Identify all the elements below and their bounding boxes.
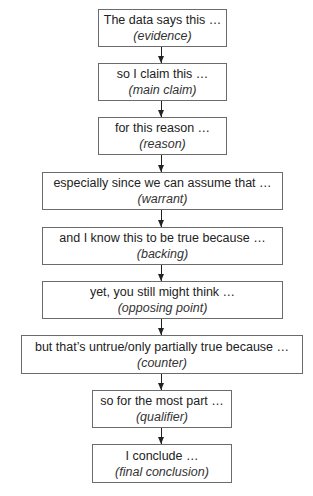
step-qualifier: so for the most part … (qualifier) (92, 390, 232, 428)
step-label: (backing) (137, 246, 188, 262)
step-text: for this reason … (115, 120, 210, 136)
step-text: especially since we can assume that … (53, 175, 271, 191)
step-label: (qualifier) (136, 409, 188, 425)
arrow-down-icon (161, 374, 162, 390)
step-counter: but that’s untrue/only partially true be… (21, 335, 303, 374)
arrow-down-icon (161, 155, 162, 172)
step-final-conclusion: I conclude … (final conclusion) (92, 444, 232, 483)
step-text: The data says this … (104, 12, 221, 28)
step-label: (final conclusion) (115, 464, 209, 480)
arrow-down-icon (161, 265, 162, 281)
arrow-down-icon (161, 101, 162, 117)
step-label: (opposing point) (118, 300, 208, 316)
step-text: and I know this to be true because … (59, 230, 265, 246)
step-opposing-point: yet, you still might think … (opposing p… (42, 281, 283, 319)
step-label: (evidence) (133, 28, 191, 44)
step-label: (main claim) (128, 82, 196, 98)
step-text: so for the most part … (100, 393, 224, 409)
step-label: (reason) (139, 136, 186, 152)
arrow-down-icon (161, 319, 162, 335)
step-evidence: The data says this … (evidence) (98, 9, 227, 47)
step-label: (warrant) (137, 191, 187, 207)
step-label: (counter) (137, 355, 187, 371)
step-reason: for this reason … (reason) (98, 117, 227, 155)
arrow-down-icon (161, 210, 162, 227)
step-main-claim: so I claim this … (main claim) (98, 63, 227, 101)
arrow-down-icon (161, 47, 162, 63)
step-text: I conclude … (126, 448, 199, 464)
step-text: yet, you still might think … (90, 284, 235, 300)
step-text: so I claim this … (117, 66, 209, 82)
step-backing: and I know this to be true because … (ba… (42, 227, 283, 265)
step-warrant: especially since we can assume that … (w… (42, 172, 283, 210)
step-text: but that’s untrue/only partially true be… (35, 339, 289, 355)
arrow-down-icon (161, 428, 162, 444)
